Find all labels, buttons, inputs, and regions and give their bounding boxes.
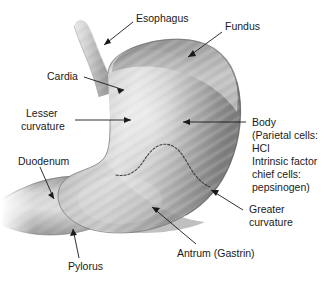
label-body-line2: (Parietal cells: [252,129,318,141]
label-body-line6: pepsinogen) [252,181,310,193]
label-antrum: Antrum (Gastrin) [177,247,255,259]
label-body-line5: chief cells: [252,168,301,180]
diagram-canvas: Esophagus Fundus Cardia Lesser curvature… [0,0,336,285]
label-greater-curvature-line1: Greater [249,203,285,215]
label-body-line4: Intrinsic factor [252,155,318,167]
stomach-anatomy-figure: Esophagus Fundus Cardia Lesser curvature… [0,0,336,285]
label-esophagus: Esophagus [136,12,189,24]
label-greater-curvature-line2: curvature [249,216,293,228]
label-body-line1: Body [252,116,277,128]
label-duodenum: Duodenum [18,155,70,167]
label-pylorus: Pylorus [68,260,103,272]
label-body-line3: HCl [252,142,270,154]
label-lesser-curvature-line2: curvature [21,120,65,132]
label-lesser-curvature-line1: Lesser [26,107,58,119]
label-cardia: Cardia [47,70,78,82]
label-fundus: Fundus [225,20,260,32]
